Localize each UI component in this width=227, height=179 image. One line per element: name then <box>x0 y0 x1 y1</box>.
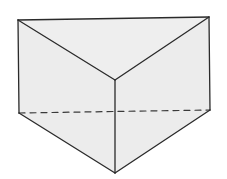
prism-faces <box>18 17 210 173</box>
triangular-prism-figure <box>0 0 227 179</box>
diagram-canvas <box>0 0 227 179</box>
